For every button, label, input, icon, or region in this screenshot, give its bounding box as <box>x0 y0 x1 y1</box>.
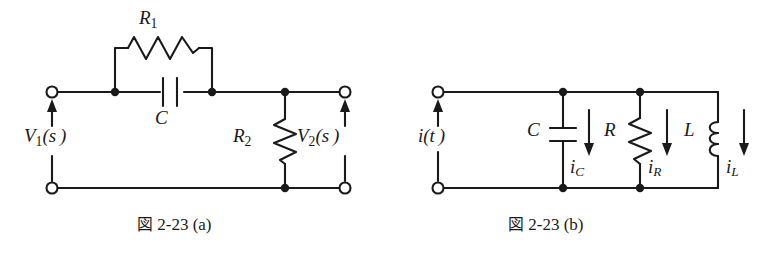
component-label-C-a-main: C <box>155 107 168 128</box>
terminal-a-output-top <box>340 87 351 98</box>
arrowhead-iC-down <box>584 143 594 156</box>
port-label-V1: V1(s ) <box>24 126 66 149</box>
component-label-R-b: R <box>604 120 616 139</box>
panel-b-circuit <box>438 92 744 188</box>
caption-figure-b: 図 2-23 (b) <box>508 216 583 233</box>
caption-figure-b-glyph: 図 <box>508 215 524 234</box>
resistor-R1-zigzag <box>128 37 199 59</box>
caption-figure-a-glyph: 図 <box>137 215 153 234</box>
component-label-R2-main: R <box>233 125 245 146</box>
arrowhead-V1-up <box>47 99 57 112</box>
terminal-b-source-bottom <box>433 183 444 194</box>
component-label-R1-subscript: 1 <box>151 16 158 31</box>
terminal-a-input-bottom <box>47 183 58 194</box>
arrowhead-iR-down <box>662 143 672 156</box>
component-label-R2-subscript: 2 <box>245 134 252 149</box>
junction-dot-a-1 <box>111 88 119 96</box>
caption-figure-a-text: 2-23 (a) <box>153 215 212 234</box>
source-label-it: i(t ) <box>418 126 445 145</box>
current-label-iC-subscript: C <box>575 164 584 179</box>
wire-a-r1-branch-left <box>115 48 128 92</box>
inductor-Lb-coil-1 <box>710 122 718 133</box>
inductor-Lb-coil-3 <box>710 144 718 156</box>
source-label-it-argument: (t ) <box>423 125 445 146</box>
caption-figure-a: 図 2-23 (a) <box>137 216 212 233</box>
component-label-L-b: L <box>684 120 695 139</box>
terminal-a-output-bottom <box>340 183 351 194</box>
arrowhead-it-up <box>433 99 443 112</box>
current-label-iR-subscript: R <box>653 164 661 179</box>
port-label-V2-main: V <box>297 125 309 146</box>
port-label-V1-main: V <box>24 125 36 146</box>
component-label-C-a: C <box>155 108 168 127</box>
junction-dot-a-3 <box>281 88 289 96</box>
junction-dot-b-3 <box>559 184 567 192</box>
junction-dot-a-2 <box>208 88 216 96</box>
terminal-b-source-top <box>433 87 444 98</box>
circuit-diagram-svg <box>0 0 769 264</box>
port-label-V2-argument: (s ) <box>315 125 339 146</box>
component-label-L-b-main: L <box>684 119 695 140</box>
component-label-C-b: C <box>527 120 540 139</box>
current-label-iC: iC <box>570 157 584 179</box>
component-label-R-b-main: R <box>604 119 616 140</box>
component-label-C-b-main: C <box>527 119 540 140</box>
junction-dot-b-1 <box>559 88 567 96</box>
current-label-iR: iR <box>648 157 661 179</box>
arrowhead-iL-down <box>739 143 749 156</box>
junction-dot-b-4 <box>636 184 644 192</box>
current-label-iL: iL <box>726 157 739 179</box>
junction-dot-b-2 <box>636 88 644 96</box>
component-label-R2: R2 <box>233 126 251 149</box>
port-label-V2: V2(s ) <box>297 126 339 149</box>
panel-a-circuit <box>52 37 345 188</box>
resistor-R2-zigzag <box>274 119 296 164</box>
inductor-Lb-coil-2 <box>710 133 718 144</box>
component-label-R1-main: R <box>139 7 151 28</box>
current-label-iL-subscript: L <box>731 164 738 179</box>
arrowhead-V2-up <box>340 99 350 112</box>
figure-container: R1 C R2 V1(s ) V2(s ) 図 2-23 (a) i(t ) C… <box>0 0 769 264</box>
component-label-R1: R1 <box>139 8 157 31</box>
port-label-V1-argument: (s ) <box>42 125 66 146</box>
caption-figure-b-text: 2-23 (b) <box>524 215 583 234</box>
junction-dot-a-4 <box>281 184 289 192</box>
wire-a-r1-branch-right <box>199 48 212 92</box>
terminal-a-input-top <box>47 87 58 98</box>
